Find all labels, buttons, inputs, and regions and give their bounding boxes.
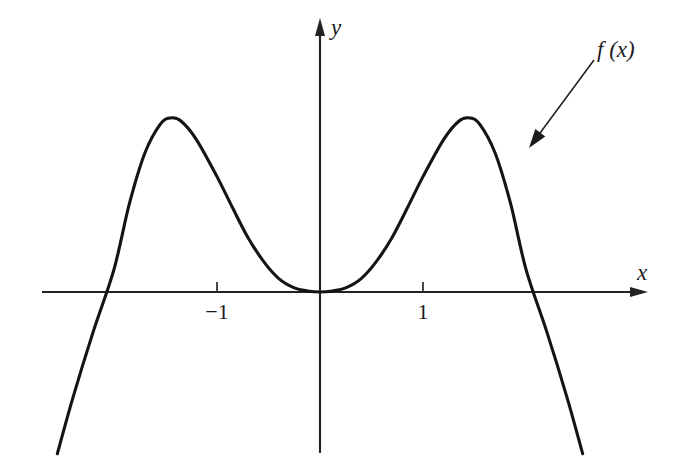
function-graph-figure: y x f (x) −1 1 (0, 0, 682, 476)
x-axis-label: x (637, 261, 647, 284)
y-axis-label: y (331, 16, 341, 39)
function-label: f (x) (597, 38, 635, 61)
plot-canvas (0, 0, 682, 476)
annotation-leader-line (537, 60, 594, 138)
x-tick-label-pos1: 1 (418, 301, 429, 323)
annotation-arrowhead (529, 129, 545, 148)
y-axis-arrowhead (315, 18, 325, 36)
x-tick-label-neg1: −1 (205, 301, 228, 323)
x-axis-arrowhead (630, 287, 648, 297)
